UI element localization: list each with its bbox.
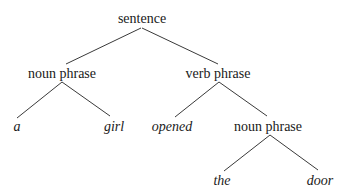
- tree-edges: [0, 0, 347, 196]
- node-noun-phrase: noun phrase: [28, 66, 96, 82]
- edge-sentence-nounphrase: [66, 28, 141, 64]
- leaf-opened: opened: [152, 119, 192, 135]
- node-noun-phrase-2: noun phrase: [234, 119, 302, 135]
- edge-nounphrase-a: [17, 82, 62, 118]
- edge-sentence-verbphrase: [142, 28, 218, 64]
- edge-nounphrase2-the: [224, 135, 270, 171]
- edge-nounphrase2-door: [270, 135, 318, 170]
- edge-nounphrase-girl: [62, 82, 110, 116]
- leaf-a: a: [14, 119, 21, 135]
- leaf-girl: girl: [104, 119, 124, 135]
- edge-verbphrase-nounphrase: [219, 82, 267, 116]
- leaf-the: the: [213, 173, 230, 189]
- node-sentence: sentence: [118, 11, 166, 27]
- parse-tree-diagram: sentence noun phrase verb phrase a girl …: [0, 0, 347, 196]
- leaf-door: door: [307, 173, 333, 189]
- node-verb-phrase: verb phrase: [186, 66, 251, 82]
- edge-verbphrase-opened: [175, 82, 219, 117]
